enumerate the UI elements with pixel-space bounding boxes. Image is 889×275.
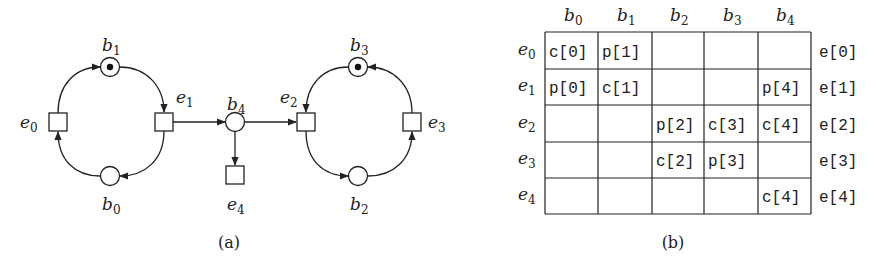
transition-e4 xyxy=(226,166,244,184)
label-e2: e2 xyxy=(280,87,298,110)
row-header-e3: e3 xyxy=(518,148,536,171)
col-header-b1: b1 xyxy=(617,5,636,28)
column-headers: b0 b1 b2 b3 b4 xyxy=(564,5,795,28)
col-header-b4: b4 xyxy=(776,5,795,28)
cell-e3-b3: p[3] xyxy=(708,153,746,171)
place-b1 xyxy=(101,58,120,77)
arc-b2-e3 xyxy=(368,132,412,176)
caption-a: (a) xyxy=(218,233,240,252)
petri-net-diagram: b1 b0 b4 b3 b2 e0 e1 e4 e2 e3 (a) xyxy=(20,35,446,252)
cell-e1-b1: c[1] xyxy=(602,80,640,98)
row-header-e1: e1 xyxy=(518,75,536,98)
row-header-e0: e0 xyxy=(518,39,536,62)
incidence-table: b0 b1 b2 b3 b4 e0 e1 e2 e3 e4 c[0] p[1] … xyxy=(518,5,857,252)
place-b2 xyxy=(349,167,368,186)
cell-e2-b2: p[2] xyxy=(656,117,694,135)
token-icon xyxy=(107,64,113,70)
arc-b0-e0 xyxy=(58,132,100,176)
cell-e0-b0: c[0] xyxy=(549,44,587,62)
cell-e2-b4: c[4] xyxy=(762,117,800,135)
cell-e1-b4: p[4] xyxy=(762,80,800,98)
cell-e0-b1: p[1] xyxy=(602,44,640,62)
arc-e3-b3 xyxy=(368,67,412,113)
col-header-b0: b0 xyxy=(564,5,583,28)
right-label-e4: e[4] xyxy=(819,189,857,207)
label-e1: e1 xyxy=(176,87,194,110)
label-e4: e4 xyxy=(227,194,245,217)
token-icon xyxy=(355,64,361,70)
cell-e1-b0: p[0] xyxy=(549,80,587,98)
label-b4: b4 xyxy=(227,94,246,117)
arc-e2-b2 xyxy=(306,131,348,176)
caption-b: (b) xyxy=(662,233,685,252)
row-header-e2: e2 xyxy=(518,112,536,135)
label-b0: b0 xyxy=(102,194,121,217)
arc-b3-e2 xyxy=(306,67,348,112)
right-label-e0: e[0] xyxy=(819,44,857,62)
transition-e1 xyxy=(155,113,173,131)
arc-e0-b1 xyxy=(58,67,100,113)
row-header-e4: e4 xyxy=(518,184,536,207)
place-b3 xyxy=(349,58,368,77)
arc-b1-e1 xyxy=(120,67,164,112)
cell-e4-b4: c[4] xyxy=(762,189,800,207)
transition-e0 xyxy=(49,113,67,131)
cell-e3-b2: c[2] xyxy=(656,153,694,171)
place-b0 xyxy=(101,167,120,186)
right-label-e3: e[3] xyxy=(819,153,857,171)
label-e0: e0 xyxy=(20,112,38,135)
col-header-b3: b3 xyxy=(723,5,742,28)
col-header-b2: b2 xyxy=(670,5,689,28)
label-b3: b3 xyxy=(350,35,369,58)
right-label-e2: e[2] xyxy=(819,117,857,135)
row-right-labels: e[0] e[1] e[2] e[3] e[4] xyxy=(819,44,857,207)
transition-e3 xyxy=(403,113,421,131)
arc-e1-b0 xyxy=(120,131,164,176)
transition-e2 xyxy=(297,113,315,131)
label-e3: e3 xyxy=(428,112,446,135)
row-headers: e0 e1 e2 e3 e4 xyxy=(518,39,536,207)
label-b1: b1 xyxy=(102,35,121,58)
right-label-e1: e[1] xyxy=(819,80,857,98)
cell-e2-b3: c[3] xyxy=(708,117,746,135)
label-b2: b2 xyxy=(350,194,369,217)
